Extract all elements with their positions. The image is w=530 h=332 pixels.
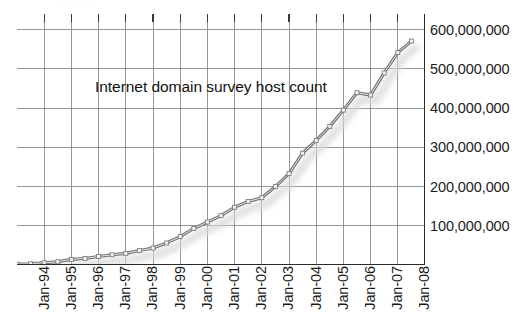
x-axis-tick-labels: Jan-94Jan-95Jan-96Jan-97Jan-98Jan-99Jan-… [17, 266, 427, 332]
x-tick-label: Jan-04 [308, 266, 324, 310]
x-tick-label: Jan-94 [36, 266, 52, 310]
chart-figure: · · · · · 100,000,000200,000,000300,000,… [0, 0, 530, 332]
chart-canvas [17, 14, 425, 265]
x-tick-label: Jan-99 [172, 266, 188, 310]
series-markers [17, 39, 413, 265]
x-tick-label: Jan-95 [63, 266, 79, 310]
x-tick-label: Jan-02 [253, 266, 269, 310]
x-tick-label: Jan-06 [362, 266, 378, 310]
y-tick-label: 500,000,000 [430, 61, 510, 77]
y-axis-tick-labels: 100,000,000200,000,000300,000,000400,000… [430, 0, 530, 290]
x-tick-label: Jan-08 [416, 266, 432, 310]
y-tick-label: 600,000,000 [430, 22, 510, 38]
x-tick-label: Jan-03 [280, 266, 296, 310]
x-tick-label: Jan-05 [335, 266, 351, 310]
x-tick-label: Jan-07 [389, 266, 405, 310]
plot-area [17, 14, 425, 265]
x-tick-label: Jan-98 [144, 266, 160, 310]
x-tick-label: Jan-00 [199, 266, 215, 310]
x-tick-label: Jan-01 [226, 266, 242, 310]
y-tick-label: 300,000,000 [430, 139, 510, 155]
x-tick-label: Jan-97 [117, 266, 133, 310]
y-tick-label: 200,000,000 [430, 179, 510, 195]
x-tick-label: Jan-96 [90, 266, 106, 310]
chart-title: Internet domain survey host count [95, 78, 327, 96]
top-tick-marks [44, 14, 398, 22]
y-tick-label: 400,000,000 [430, 100, 510, 116]
y-tick-label: 100,000,000 [430, 218, 510, 234]
